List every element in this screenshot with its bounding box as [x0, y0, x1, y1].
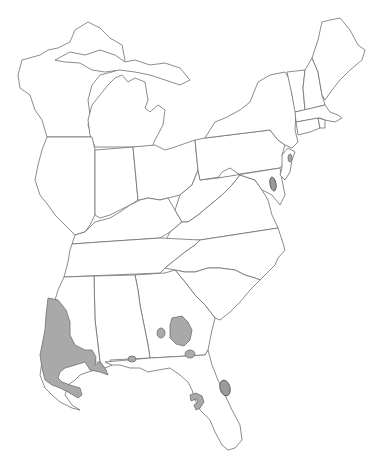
- range-new-jersey: [288, 154, 292, 162]
- range-southwest-georgia-small: [157, 328, 165, 338]
- range-georgia-florida-border: [185, 350, 195, 358]
- state-michigan: [88, 75, 165, 147]
- state-florida: [105, 350, 242, 450]
- range-map: [0, 0, 383, 464]
- state-illinois: [35, 137, 95, 235]
- range-florida-panhandle: [128, 356, 136, 362]
